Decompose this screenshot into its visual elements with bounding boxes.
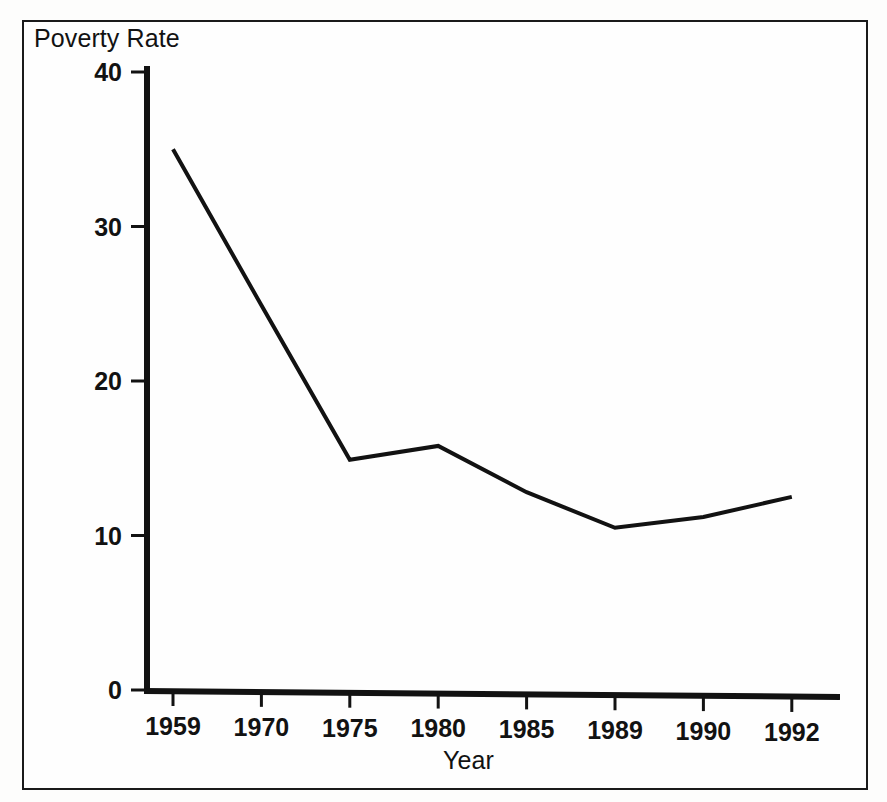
x-tick-label: 1970 <box>234 713 290 742</box>
x-tick-label: 1959 <box>145 712 201 741</box>
y-tick-label: 0 <box>60 676 122 705</box>
y-tick-label: 20 <box>60 367 122 396</box>
x-tick-label: 1990 <box>676 717 732 746</box>
line-chart-plot <box>0 0 887 802</box>
y-tick-label: 40 <box>60 58 122 87</box>
x-tick-label: 1980 <box>410 714 466 743</box>
poverty-rate-line <box>173 149 792 528</box>
x-tick-label: 1975 <box>322 714 378 743</box>
x-axis-line <box>144 691 840 697</box>
chart-page: Poverty Rate Year 010203040 195919701975… <box>0 0 887 802</box>
x-tick-label: 1992 <box>764 718 820 747</box>
axes-group <box>144 66 840 697</box>
y-tick-label: 30 <box>60 212 122 241</box>
y-tick-label: 10 <box>60 521 122 550</box>
x-tick-label: 1989 <box>587 716 643 745</box>
x-tick-label: 1985 <box>499 715 555 744</box>
